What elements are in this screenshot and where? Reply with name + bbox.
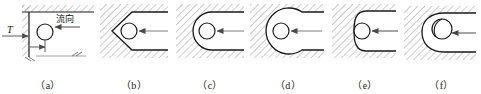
panel-e: （e） bbox=[328, 0, 402, 94]
panel-f-caption: （f） bbox=[402, 80, 481, 92]
panel-d-caption: （d） bbox=[248, 80, 328, 92]
panel-a: 流向 T （a） bbox=[0, 0, 96, 94]
panel-f: （f） bbox=[402, 0, 481, 94]
panel-a-drawing: 流向 T bbox=[0, 0, 96, 82]
panel-e-drawing bbox=[328, 0, 402, 82]
panel-b-caption: （b） bbox=[96, 80, 172, 92]
spiral-wall-hatch bbox=[402, 0, 481, 82]
panel-e-caption: （e） bbox=[328, 80, 402, 92]
panel-c-drawing bbox=[172, 0, 248, 82]
thickness-label: T bbox=[7, 24, 14, 35]
bead-circle bbox=[121, 23, 137, 39]
weld-groove-figure: 流向 T （a） bbox=[0, 0, 481, 94]
flow-direction-label: 流向 bbox=[56, 13, 74, 24]
corner-ground-symbol bbox=[25, 57, 35, 61]
panel-d-drawing bbox=[248, 0, 328, 82]
bead-circle bbox=[273, 23, 289, 39]
panel-f-drawing bbox=[402, 0, 481, 82]
bead-circle bbox=[199, 23, 215, 39]
left-wall-hatch bbox=[22, 5, 29, 57]
panel-b: （b） bbox=[96, 0, 172, 94]
ground-symbol bbox=[72, 52, 82, 56]
bead-circle bbox=[37, 24, 53, 40]
panel-b-drawing bbox=[96, 0, 172, 82]
panel-d: （d） bbox=[248, 0, 328, 94]
bead-circle bbox=[354, 23, 370, 39]
pinch-wall-hatch bbox=[328, 0, 402, 82]
panel-c: （c） bbox=[172, 0, 248, 94]
panel-a-caption: （a） bbox=[0, 80, 96, 92]
panel-c-caption: （c） bbox=[172, 80, 248, 92]
top-wall-hatch bbox=[22, 5, 94, 12]
